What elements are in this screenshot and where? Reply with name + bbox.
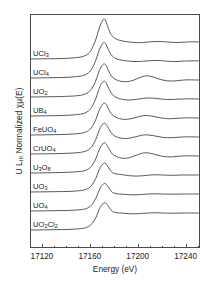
x-minor-tick [126,246,127,249]
series-label-cruo4: CrUO4 [33,145,56,154]
series-label-ub4: UB4 [33,107,47,116]
x-minor-tick [78,246,79,249]
series-label-ucl3: UCl3 [33,50,49,59]
x-tick-label: 17200 [116,252,160,261]
y-axis-label: U LIII Normalized χμ(E) [14,14,28,248]
x-tick-label: 17120 [20,252,64,261]
series-label-uo4: UO4 [33,202,48,211]
x-tick [186,244,187,248]
series-label-uo3: UO3 [33,183,48,192]
spectrum-curve-ucl3 [31,19,200,59]
x-tick-label: 17240 [164,252,208,261]
x-tick [42,244,43,248]
x-minor-tick [162,246,163,249]
x-minor-tick [174,246,175,249]
x-minor-tick [114,246,115,249]
x-minor-tick [102,246,103,249]
series-label-ucl4: UCl4 [33,69,49,78]
x-tick [90,244,91,248]
spectrum-curve-uo2 [31,64,200,97]
x-tick [138,244,139,248]
series-label-u3o8: U3O8 [33,164,51,173]
x-axis-label: Energy (eV) [30,264,200,274]
series-label-uo2: UO2 [33,88,48,97]
x-minor-tick [54,246,55,249]
spectrum-curve-uo4 [31,183,200,211]
spectrum-curve-ub4 [31,81,200,116]
series-label-uo2cl2: UO2Cl2 [33,221,58,230]
spectrum-curve-uo3 [31,163,200,192]
x-minor-tick [66,246,67,249]
xanes-figure: U LIII Normalized χμ(E) UCl3UCl4UO2UB4Fe… [0,0,209,289]
x-tick-label: 17160 [68,252,112,261]
spectrum-curve-u3o8 [31,143,200,173]
x-minor-tick [198,246,199,249]
spectrum-curve-ucl4 [31,42,200,78]
x-axis-tick-labels: 17120171601720017240 [0,252,209,264]
series-label-feuo4: FeUO4 [33,126,56,135]
x-minor-tick [150,246,151,249]
